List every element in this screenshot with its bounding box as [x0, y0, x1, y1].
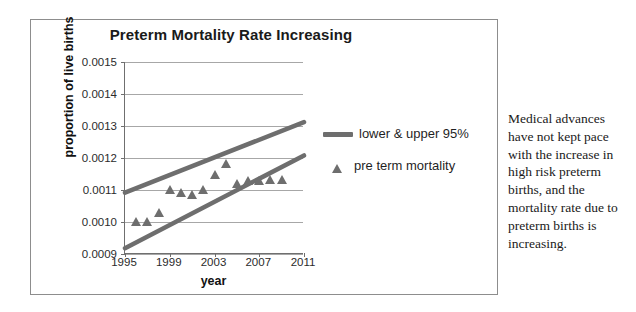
chart-legend: lower & upper 95% pre term mortality	[323, 126, 493, 191]
x-axis-tick-labels: 19951999200320072011	[124, 256, 303, 274]
legend-item-mortality: pre term mortality	[323, 158, 493, 174]
plot-area	[124, 62, 303, 254]
x-tick-label: 2003	[201, 256, 227, 268]
legend-item-band: lower & upper 95%	[323, 126, 493, 142]
y-axis-tick-labels: 0.00150.00140.00130.00120.00110.00100.00…	[31, 62, 122, 254]
plot-inner	[125, 62, 303, 253]
x-tick-label: 2011	[291, 256, 316, 268]
chart-container: Preterm Mortality Rate Increasing propor…	[30, 19, 498, 295]
x-tick-label: 1995	[111, 256, 137, 268]
data-point-marker	[210, 170, 220, 179]
side-note-text: Medical advances have not kept pace with…	[508, 110, 626, 253]
x-axis-title: year	[124, 274, 303, 288]
data-point-marker	[254, 176, 264, 185]
data-point-marker	[187, 190, 197, 199]
data-point-marker	[131, 217, 141, 226]
legend-triangle-swatch-icon	[332, 164, 342, 173]
chart-title: Preterm Mortality Rate Increasing	[31, 26, 431, 43]
legend-label-band: lower & upper 95%	[359, 126, 469, 142]
data-point-marker	[154, 208, 164, 217]
data-point-marker	[221, 159, 231, 168]
x-tick-label: 2007	[245, 256, 271, 268]
x-tick-label: 1999	[156, 256, 182, 268]
y-tick-label: 0.0014	[82, 88, 117, 100]
legend-label-mortality: pre term mortality	[354, 158, 455, 174]
y-tick-label: 0.0010	[82, 216, 117, 228]
data-point-marker	[198, 185, 208, 194]
y-tick-label: 0.0012	[82, 152, 117, 164]
data-point-marker	[165, 185, 175, 194]
y-tick-label: 0.0013	[82, 120, 117, 132]
y-tick-label: 0.0015	[82, 56, 117, 68]
data-point-marker	[142, 217, 152, 226]
y-tick-label: 0.0011	[83, 184, 117, 196]
screenshot-root: Preterm Mortality Rate Increasing propor…	[0, 0, 636, 312]
data-point-marker	[232, 179, 242, 188]
data-point-marker	[176, 188, 186, 197]
legend-line-swatch-icon	[323, 132, 353, 137]
data-point-marker	[243, 176, 253, 185]
data-point-marker	[277, 175, 287, 184]
data-point-marker	[265, 175, 275, 184]
